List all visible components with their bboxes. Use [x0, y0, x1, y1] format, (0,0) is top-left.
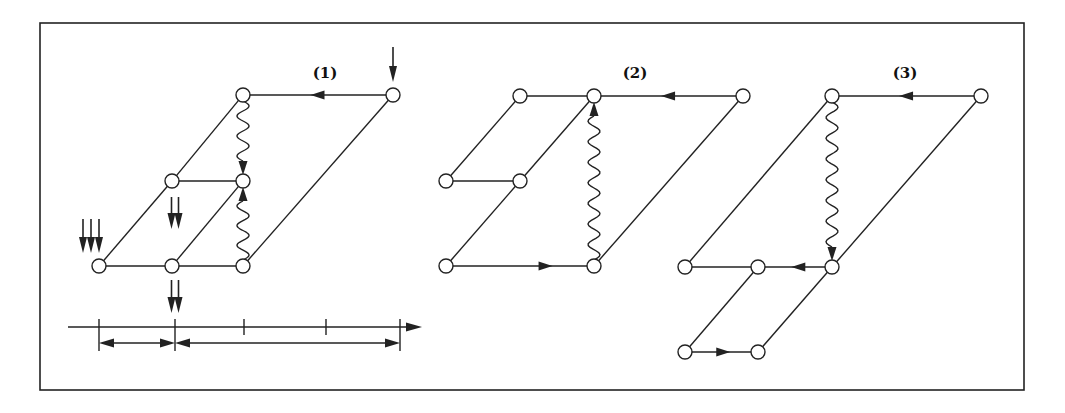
diagram-canvas: (1)(2)(3) (1) (2) (3)	[0, 0, 1065, 413]
wavy-arrowhead-icon	[828, 247, 837, 261]
edge	[689, 272, 754, 348]
down-arrowhead-icon	[168, 297, 176, 313]
node-circle	[439, 259, 453, 273]
wavy-edge	[237, 201, 249, 260]
edge	[176, 100, 239, 177]
edge	[598, 101, 739, 262]
edge-arrowhead-icon	[539, 262, 553, 271]
down-arrowhead-icon	[175, 297, 183, 313]
node-circle	[513, 89, 527, 103]
node-circle	[751, 345, 765, 359]
node-circle	[165, 174, 179, 188]
input-arrow-icon	[168, 280, 183, 313]
edge	[247, 100, 389, 262]
edge	[103, 186, 168, 262]
wavy-edge	[588, 116, 600, 260]
down-arrowhead-icon	[389, 66, 397, 82]
node-circle	[587, 89, 601, 103]
edge	[450, 101, 516, 177]
wavy-arrowhead-icon	[239, 187, 248, 201]
edge-arrowhead-icon	[899, 92, 913, 101]
panel-label: (1)	[313, 64, 338, 82]
node-circle	[236, 259, 250, 273]
node-circle	[92, 259, 106, 273]
interval-right-arrowhead-icon	[160, 339, 175, 348]
node-circle	[825, 260, 839, 274]
down-arrowhead-icon	[175, 213, 183, 229]
diagram-svg: (1)(2)(3)	[0, 0, 1065, 413]
interval-left-arrowhead-icon	[175, 339, 190, 348]
edge	[450, 186, 516, 262]
edge	[762, 272, 828, 348]
edge	[836, 101, 977, 263]
axis-arrowhead-icon	[406, 323, 422, 332]
node-circle	[236, 174, 250, 188]
down-arrowhead-icon	[95, 237, 103, 253]
edge-arrowhead-icon	[716, 348, 730, 357]
panels: (1)(2)(3)	[68, 47, 988, 359]
edge-arrowhead-icon	[661, 92, 675, 101]
edge	[524, 101, 590, 177]
node-circle	[751, 260, 765, 274]
timeline-axis	[68, 319, 422, 351]
node-circle	[678, 345, 692, 359]
wavy-edge	[237, 101, 249, 161]
wavy-arrowhead-icon	[590, 102, 599, 116]
node-circle	[513, 174, 527, 188]
input-arrow-icon	[79, 219, 103, 253]
down-arrowhead-icon	[168, 213, 176, 229]
panel-1: (1)	[68, 47, 422, 351]
panel-3: (3)	[678, 64, 988, 359]
down-arrowhead-icon	[87, 237, 95, 253]
node-circle	[736, 89, 750, 103]
edge	[689, 101, 828, 263]
node-circle	[587, 259, 601, 273]
panel-2: (2)	[439, 64, 750, 273]
figure-frame	[40, 23, 1024, 390]
interval-right-arrowhead-icon	[385, 339, 400, 348]
interval-span	[99, 339, 175, 348]
panel-label: (2)	[623, 64, 648, 82]
node-circle	[825, 89, 839, 103]
wavy-arrowhead-icon	[239, 161, 248, 175]
input-arrow-icon	[389, 47, 397, 82]
down-arrowhead-icon	[79, 237, 87, 253]
edge	[176, 186, 239, 262]
node-circle	[165, 259, 179, 273]
node-circle	[974, 89, 988, 103]
node-circle	[236, 88, 250, 102]
node-circle	[678, 260, 692, 274]
node-circle	[386, 88, 400, 102]
input-arrow-icon	[168, 197, 183, 229]
node-circle	[439, 174, 453, 188]
panel-label: (3)	[893, 64, 918, 82]
interval-left-arrowhead-icon	[99, 339, 114, 348]
edge-arrowhead-icon	[311, 91, 325, 100]
edge-arrowhead-icon	[791, 263, 805, 272]
wavy-edge	[826, 102, 838, 247]
interval-span	[175, 339, 400, 348]
